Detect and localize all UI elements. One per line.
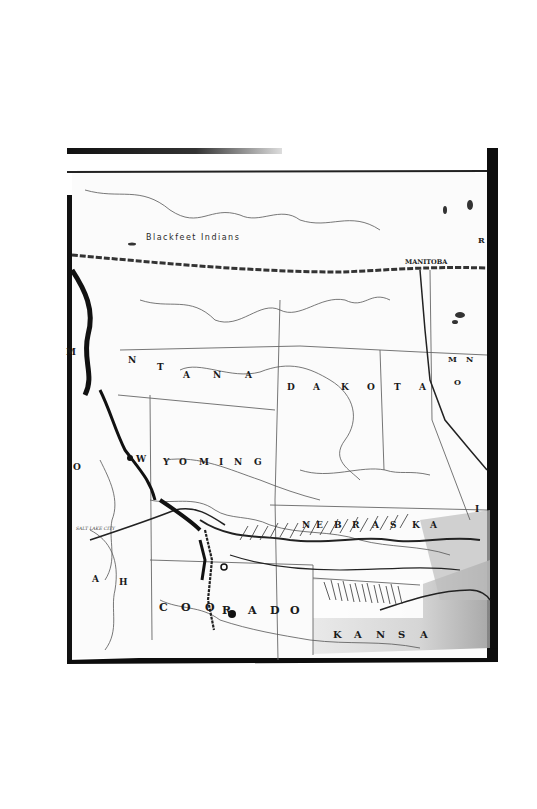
label-edge-r: R <box>478 235 485 245</box>
svg-text:S: S <box>390 520 397 530</box>
svg-text:O: O <box>205 601 215 614</box>
svg-text:O: O <box>179 457 187 467</box>
top-edge-bar <box>67 148 282 154</box>
svg-text:N: N <box>466 354 473 364</box>
label-salt-lake-city: SALT LAKE CITY <box>76 526 116 531</box>
svg-text:K: K <box>412 520 421 530</box>
svg-text:A: A <box>429 520 438 530</box>
svg-text:C: C <box>159 601 168 614</box>
svg-text:N: N <box>128 355 136 365</box>
svg-text:A: A <box>419 629 428 640</box>
map-top-border <box>67 171 488 172</box>
svg-text:M: M <box>66 347 76 357</box>
svg-text:I: I <box>219 457 223 467</box>
svg-text:D: D <box>287 382 295 392</box>
svg-text:N: N <box>234 457 242 467</box>
label-idaho-fragment: O <box>73 462 81 472</box>
svg-text:O: O <box>454 377 461 387</box>
scanned-map-page: Blackfeet Indians MANITOBA SALT LAKE CIT… <box>0 0 537 809</box>
svg-text:K: K <box>333 629 342 640</box>
svg-text:A: A <box>418 382 427 392</box>
svg-text:B: B <box>334 520 342 530</box>
svg-text:M: M <box>199 457 209 467</box>
svg-text:Y: Y <box>162 457 170 467</box>
svg-text:T: T <box>394 382 401 392</box>
svg-text:H: H <box>119 577 128 587</box>
svg-text:N: N <box>213 370 221 380</box>
svg-text:A: A <box>371 520 380 530</box>
svg-text:A: A <box>91 574 100 584</box>
city-marker-wyoming <box>127 455 133 461</box>
label-manitoba: MANITOBA <box>405 258 448 266</box>
label-iowa-fragment: I <box>475 504 479 514</box>
svg-text:N: N <box>376 629 385 640</box>
left-edge-bar <box>67 195 72 660</box>
svg-text:A: A <box>247 604 257 617</box>
svg-text:G: G <box>254 457 262 467</box>
svg-text:S: S <box>398 629 405 640</box>
svg-text:K: K <box>341 382 350 392</box>
svg-text:R: R <box>352 520 360 530</box>
svg-text:M: M <box>448 354 457 364</box>
svg-text:A: A <box>353 629 362 640</box>
label-blackfeet-indians: Blackfeet Indians <box>146 233 240 242</box>
svg-text:R: R <box>222 604 232 617</box>
svg-text:T: T <box>157 362 164 372</box>
svg-text:O: O <box>367 382 375 392</box>
svg-text:E: E <box>316 520 323 530</box>
svg-text:W: W <box>135 454 147 464</box>
svg-text:A: A <box>182 370 191 380</box>
svg-text:D: D <box>270 604 280 617</box>
svg-text:O: O <box>290 604 300 617</box>
svg-text:A: A <box>244 370 253 380</box>
svg-text:N: N <box>302 520 310 530</box>
svg-text:A: A <box>312 382 321 392</box>
svg-text:O: O <box>181 601 191 614</box>
